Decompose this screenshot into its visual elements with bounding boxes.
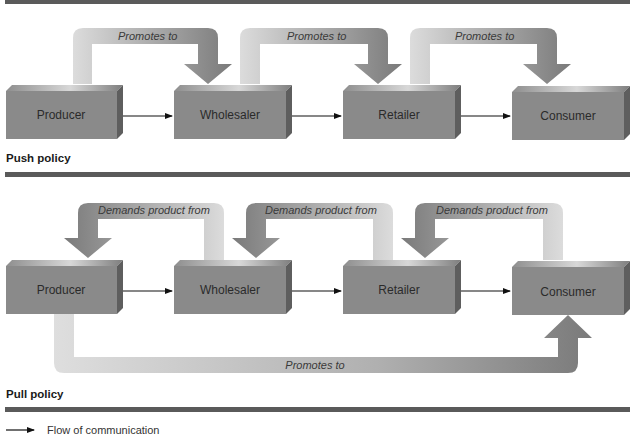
pull-box-label: Retailer bbox=[378, 283, 419, 297]
pull-section-title: Pull policy bbox=[6, 388, 64, 400]
push-arrow-label-1: Promotes to bbox=[118, 30, 177, 42]
pull-bottom-arrow-label: Promotes to bbox=[285, 359, 344, 371]
push-arrow-label-2: Promotes to bbox=[287, 30, 346, 42]
pull-arrow-label-1: Demands product from bbox=[98, 204, 210, 216]
top-rule bbox=[5, 0, 630, 4]
push-box-label: Wholesaler bbox=[200, 108, 260, 122]
push-box-consumer: Consumer bbox=[512, 86, 630, 140]
pull-box-label: Producer bbox=[37, 283, 86, 297]
pull-box-consumer: Consumer bbox=[512, 261, 630, 315]
push-arrow-1: Promotes to bbox=[73, 28, 232, 84]
legend: Flow of communication bbox=[6, 424, 160, 436]
legend-label: Flow of communication bbox=[47, 424, 160, 436]
middle-rule bbox=[5, 172, 630, 177]
push-arrow-2: Promotes to bbox=[240, 28, 402, 84]
pull-box-label: Consumer bbox=[540, 285, 595, 299]
pull-arrow-1: Demands product from bbox=[64, 203, 224, 260]
push-arrow-label-3: Promotes to bbox=[455, 30, 514, 42]
push-box-label: Producer bbox=[37, 108, 86, 122]
push-pull-diagram: Promotes to Promotes to Promotes to Prod… bbox=[0, 0, 635, 446]
pull-arrow-2: Demands product from bbox=[232, 203, 393, 260]
pull-arrow-label-2: Demands product from bbox=[265, 204, 377, 216]
pull-arrow-label-3: Demands product from bbox=[436, 204, 548, 216]
pull-box-wholesaler: Wholesaler bbox=[174, 260, 292, 314]
pull-bottom-arrow: Promotes to bbox=[54, 314, 592, 373]
push-section-title: Push policy bbox=[6, 152, 71, 164]
push-box-producer: Producer bbox=[6, 85, 123, 139]
push-section: Promotes to Promotes to Promotes to Prod… bbox=[6, 28, 630, 164]
push-box-label: Consumer bbox=[540, 109, 595, 123]
push-box-retailer: Retailer bbox=[343, 85, 461, 139]
push-box-wholesaler: Wholesaler bbox=[174, 85, 292, 139]
pull-box-retailer: Retailer bbox=[343, 260, 461, 314]
pull-section: Demands product from Demands product fro… bbox=[6, 203, 630, 400]
push-box-label: Retailer bbox=[378, 108, 419, 122]
bottom-rule bbox=[5, 407, 630, 412]
push-arrow-3: Promotes to bbox=[410, 28, 571, 84]
pull-box-producer: Producer bbox=[6, 260, 123, 314]
pull-box-label: Wholesaler bbox=[200, 283, 260, 297]
pull-arrow-3: Demands product from bbox=[401, 203, 563, 260]
